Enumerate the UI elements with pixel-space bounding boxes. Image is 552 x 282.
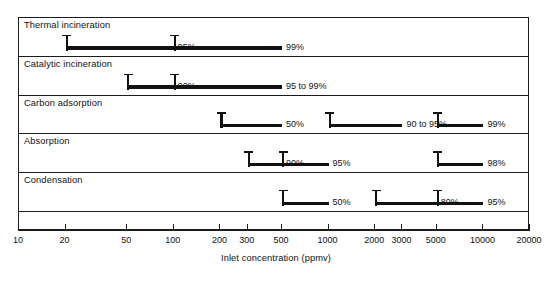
axis-tick: [281, 224, 282, 231]
axis-tick-label: 10000: [470, 235, 495, 246]
row-label-absorption: Absorption: [24, 135, 69, 147]
axis-tick: [219, 224, 220, 231]
table-row: Carbon adsorption 50%90 to 95%99%: [19, 96, 528, 135]
marker-label: 50%: [286, 119, 304, 130]
marker-bar: [66, 46, 174, 49]
marker-bar: [282, 163, 329, 166]
axis-tick-label: 50: [121, 235, 131, 246]
marker-bar: [127, 85, 174, 88]
marker-bar: [437, 163, 484, 166]
axis-tick-label: 500: [273, 235, 288, 246]
axis-tick-label: 200: [212, 235, 227, 246]
table-row: Condensation 50%80%95%: [19, 173, 528, 212]
range-marker: 95%: [66, 35, 174, 51]
range-marker: 50%: [282, 190, 329, 206]
range-marker: 80%: [375, 190, 437, 206]
range-marker: 95%: [437, 190, 484, 206]
marker-label: 98%: [487, 158, 505, 169]
table-row: Catalytic incineration 90%95 to 99%: [19, 57, 528, 96]
axis-tick: [65, 224, 66, 231]
row-label-carbon-adsorption: Carbon adsorption: [24, 97, 102, 109]
axis-tick: [173, 224, 174, 231]
range-marker: 99%: [174, 35, 282, 51]
axis-tick: [482, 224, 483, 231]
axis-tick-label: 3000: [391, 235, 411, 246]
marker-bar: [220, 124, 282, 127]
range-marker: 99%: [437, 112, 484, 128]
marker-label: 95%: [487, 197, 505, 208]
x-axis: 1020501002003005001000200030005000100002…: [18, 230, 529, 232]
marker-label: 99%: [286, 42, 304, 53]
axis-tick-label: 10: [13, 235, 23, 246]
axis-tick-label: 5000: [426, 235, 446, 246]
figure-container: Thermal incineration 95%99% Catalytic in…: [0, 0, 552, 282]
range-marker: 90%: [248, 151, 282, 167]
chart-plot-area: Thermal incineration 95%99% Catalytic in…: [18, 17, 529, 230]
marker-bar: [375, 202, 437, 205]
range-marker: 90 to 95%: [329, 112, 403, 128]
axis-tick-label: 100: [165, 235, 180, 246]
marker-label: 95%: [333, 158, 351, 169]
axis-tick: [328, 224, 329, 231]
range-marker: 90%: [127, 74, 174, 90]
marker-bar: [174, 85, 282, 88]
range-marker: 95 to 99%: [174, 74, 282, 90]
axis-tick-label: 1000: [318, 235, 338, 246]
axis-tick-label: 20000: [516, 235, 541, 246]
axis-tick: [529, 224, 530, 231]
axis-tick: [18, 224, 19, 231]
marker-label: 50%: [333, 197, 351, 208]
marker-bar: [437, 124, 484, 127]
table-row: Thermal incineration 95%99%: [19, 18, 528, 57]
range-marker: 95%: [282, 151, 329, 167]
table-row-empty: [19, 212, 528, 230]
axis-tick-label: 2000: [364, 235, 384, 246]
marker-bar: [174, 46, 282, 49]
axis-tick: [401, 224, 402, 231]
axis-tick: [436, 224, 437, 231]
range-marker: 98%: [437, 151, 484, 167]
marker-label: 95 to 99%: [286, 81, 327, 92]
row-label-thermal-incineration: Thermal incineration: [24, 19, 110, 31]
axis-tick: [374, 224, 375, 231]
axis-tick: [247, 224, 248, 231]
row-label-catalytic-incineration: Catalytic incineration: [24, 58, 112, 70]
marker-bar: [329, 124, 403, 127]
axis-tick-label: 20: [60, 235, 70, 246]
marker-bar: [248, 163, 282, 166]
row-label-condensation: Condensation: [24, 174, 83, 186]
x-axis-title: Inlet concentration (ppmv): [0, 253, 552, 263]
table-row: Absorption 90%95%98%: [19, 134, 528, 173]
range-marker: 50%: [220, 112, 282, 128]
marker-label: 99%: [487, 119, 505, 130]
axis-tick-label: 300: [239, 235, 254, 246]
marker-bar: [437, 202, 484, 205]
marker-bar: [282, 202, 329, 205]
axis-tick: [126, 224, 127, 231]
